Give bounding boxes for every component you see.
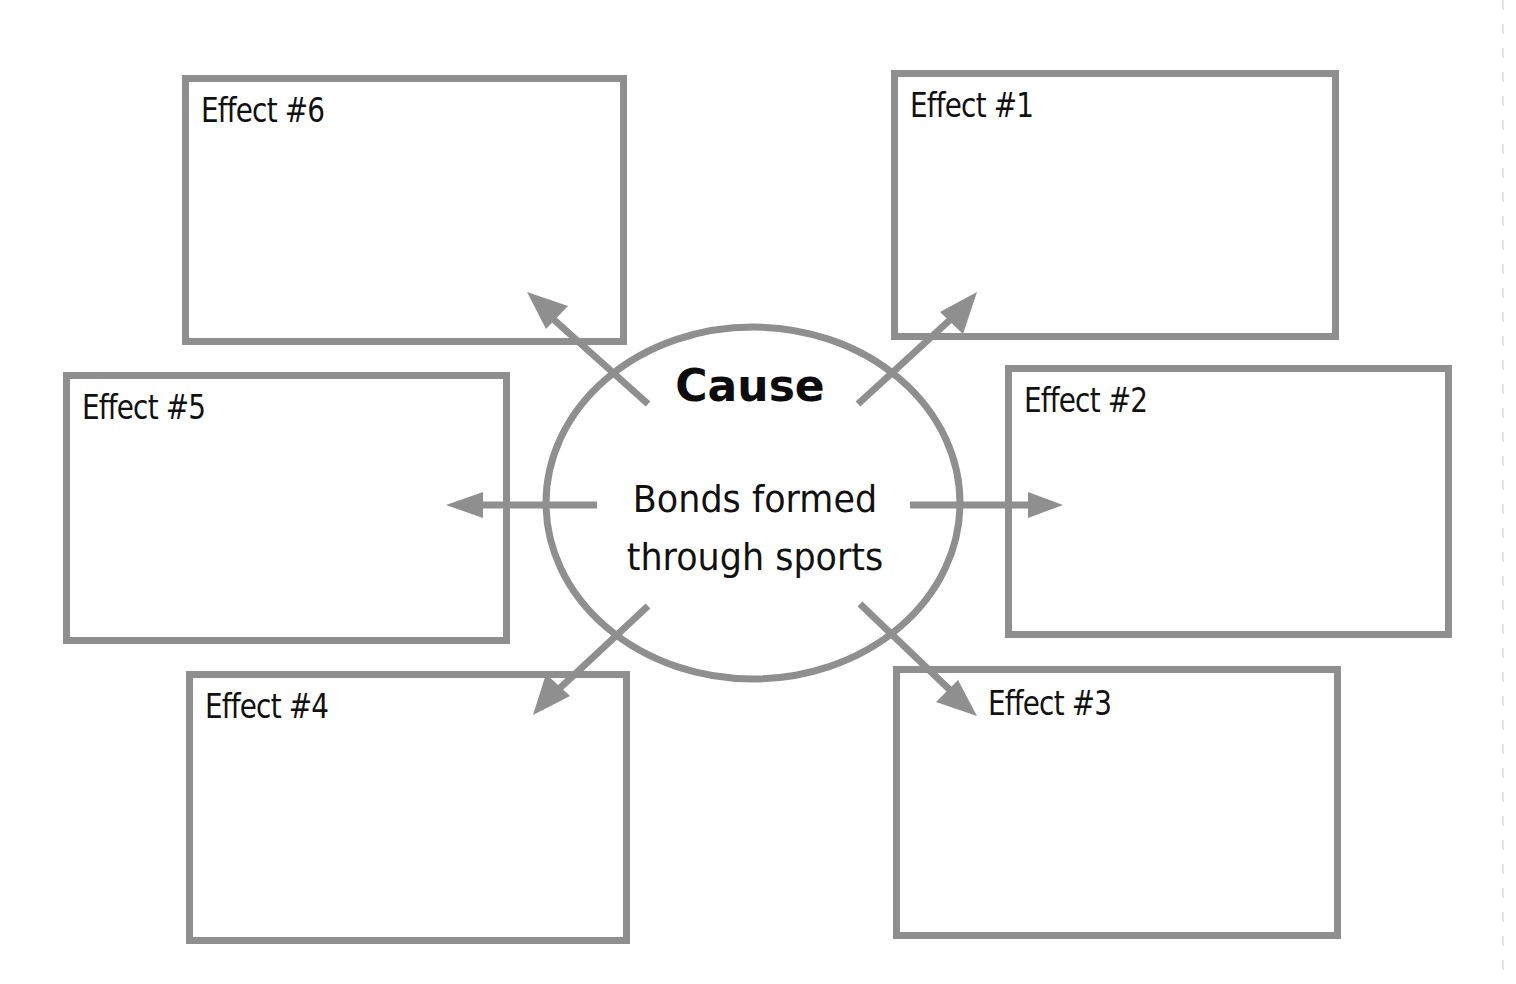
effect-label-1: Effect #1 bbox=[910, 85, 1033, 125]
effect-box-4[interactable]: Effect #4 bbox=[186, 671, 630, 944]
page-margin-dots bbox=[1502, 0, 1504, 984]
cause-description: Bonds formed through sports bbox=[585, 470, 925, 586]
effect-box-1[interactable]: Effect #1 bbox=[891, 70, 1339, 340]
cause-effect-diagram: Effect #6 Effect #1 Effect #5 Effect #2 … bbox=[0, 0, 1516, 984]
cause-heading: Cause bbox=[600, 360, 900, 411]
effect-box-6[interactable]: Effect #6 bbox=[182, 75, 627, 345]
effect-box-2[interactable]: Effect #2 bbox=[1005, 365, 1452, 638]
effect-label-3: Effect #3 bbox=[988, 683, 1111, 723]
effect-label-5: Effect #5 bbox=[82, 387, 205, 427]
cause-text-line-1: Bonds formed bbox=[585, 470, 925, 528]
effect-box-3[interactable]: Effect #3 bbox=[893, 666, 1341, 939]
effect-box-5[interactable]: Effect #5 bbox=[63, 372, 510, 644]
cause-text-line-2: through sports bbox=[585, 528, 925, 586]
effect-label-6: Effect #6 bbox=[201, 90, 324, 130]
effect-label-4: Effect #4 bbox=[205, 686, 328, 726]
effect-label-2: Effect #2 bbox=[1024, 380, 1147, 420]
